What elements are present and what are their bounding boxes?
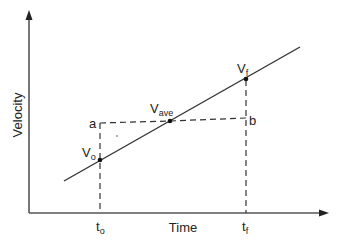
x-axis-arrow-icon	[319, 210, 329, 217]
vave-to-b-dashed-line	[170, 118, 246, 121]
v-average-point	[168, 119, 173, 124]
x-axis-label: Time	[169, 220, 197, 235]
v-initial-point	[98, 158, 103, 163]
y-axis-arrow-icon	[26, 10, 33, 20]
v-final-label: Vf	[237, 61, 249, 78]
velocity-time-diagram: Velocity Time Vo Vave Vf a b to tf	[0, 0, 338, 242]
t-initial-label: to	[96, 219, 105, 236]
diagram-svg: Velocity Time Vo Vave Vf a b to tf	[0, 0, 338, 242]
y-axis-label: Velocity	[10, 92, 25, 137]
t-final-label: tf	[242, 219, 249, 236]
corner-label-a: a	[89, 116, 97, 131]
v-average-label: Vave	[150, 101, 173, 118]
corner-label-b: b	[249, 113, 256, 128]
v-initial-label: Vo	[82, 145, 96, 162]
a-to-vave-dashed-line	[100, 121, 170, 123]
stray-dot	[116, 135, 118, 137]
